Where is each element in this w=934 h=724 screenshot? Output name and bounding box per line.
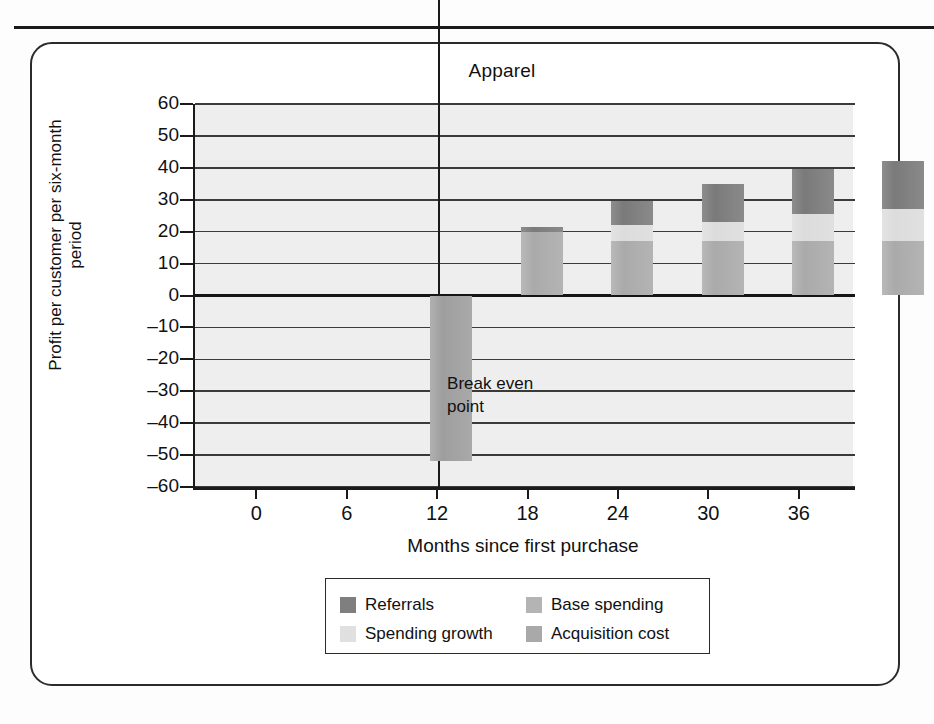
bar-segment-referrals [702,184,744,222]
x-axis-tick-mark [346,487,348,499]
x-axis-tick-label: 6 [317,502,377,525]
y-axis-tick-label: 10 [123,252,179,274]
x-axis-tick-label: 0 [226,502,286,525]
bar-group [792,104,834,487]
bar-segment-base-spending [882,241,924,295]
bar-segment-referrals [792,169,834,214]
legend-item: Referrals [340,590,526,619]
bar-group [611,104,653,487]
y-axis-tick-mark [180,103,193,105]
y-axis-tick-label: 0 [123,284,179,306]
chart-figure: Apparel Profit per customer per six-mont… [0,0,934,724]
y-axis-tick-label: 20 [123,220,179,242]
bar-group [521,104,563,487]
x-axis-tick-mark [707,487,709,499]
top-divider-rule [14,26,934,29]
chart-title: Apparel [0,60,934,82]
chart-title-text: Apparel [469,60,536,82]
y-axis-tick-mark [180,167,193,169]
y-axis-tick-mark [180,295,193,297]
bar-group [430,104,472,487]
legend-label: Referrals [365,595,434,615]
legend-label: Spending growth [365,624,493,644]
bar-segment-spending-growth [611,225,653,241]
x-axis-label: Months since first purchase [193,535,853,557]
y-axis-tick-label: 30 [123,188,179,210]
legend-box: ReferralsBase spendingSpending growthAcq… [325,578,710,654]
y-axis-tick-label: –10 [123,315,179,337]
legend-item: Acquisition cost [526,619,712,648]
legend-label: Acquisition cost [551,624,669,644]
x-axis-tick-mark [255,487,257,499]
y-axis-tick-mark [180,326,193,328]
bar-segment-base-spending [611,241,653,295]
bar-group [702,104,744,487]
bar-segment-spending-growth [792,214,834,241]
x-axis-tick-label: 24 [588,502,648,525]
y-axis-tick-label: –30 [123,379,179,401]
y-axis-tick-label: –20 [123,347,179,369]
x-axis-tick-mark [617,487,619,499]
y-axis-tick-mark [180,199,193,201]
y-axis-tick-mark [180,422,193,424]
y-axis-tick-mark [180,358,193,360]
bar-segment-referrals [882,161,924,209]
bar-segment-spending-growth [702,222,744,241]
y-axis-tick-mark [180,486,193,488]
y-axis-tick-label: –40 [123,411,179,433]
y-axis-tick-mark [180,135,193,137]
bar-segment-referrals [521,227,563,232]
bar-segment-base-spending [702,241,744,295]
x-axis-tick-mark [527,487,529,499]
x-axis-tick-label: 12 [407,502,467,525]
x-axis-tick-label: 18 [498,502,558,525]
legend-items: ReferralsBase spendingSpending growthAcq… [326,579,709,653]
legend-swatch-icon [526,597,542,613]
y-axis-tick-label: –60 [123,475,179,497]
plot-area [193,104,853,487]
legend-swatch-icon [340,626,356,642]
y-axis-tick-mark [180,263,193,265]
break-even-annotation: Break evenpoint [447,372,533,418]
legend-item: Spending growth [340,619,526,648]
x-axis-tick-mark [798,487,800,499]
y-axis-label: Profit per customer per six-month period [46,115,86,375]
x-axis-tick-label: 36 [769,502,829,525]
bar-segment-referrals [611,201,653,225]
y-axis-tick-mark [180,231,193,233]
y-axis-tick-label: 60 [123,92,179,114]
break-even-annotation-line1: Break even [447,372,533,395]
bar-segment-base-spending [521,232,563,296]
break-even-annotation-line2: point [447,395,533,418]
x-axis-tick-label: 30 [678,502,738,525]
x-axis-line [193,487,855,490]
legend-swatch-icon [526,626,542,642]
legend-item: Base spending [526,590,712,619]
x-axis-tick-mark [436,487,438,499]
bar-segment-base-spending [792,241,834,295]
y-axis-tick-label: 40 [123,156,179,178]
y-axis-tick-mark [180,454,193,456]
y-axis-tick-mark [180,390,193,392]
y-axis-tick-label: –50 [123,443,179,465]
bar-group [882,104,924,487]
legend-label: Base spending [551,595,663,615]
y-axis-tick-label: 50 [123,124,179,146]
bar-segment-spending-growth [882,209,924,241]
legend-swatch-icon [340,597,356,613]
